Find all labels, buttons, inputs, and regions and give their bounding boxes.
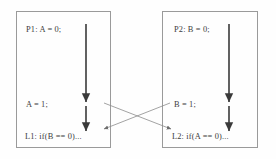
statement-p1-assign: A = 1; [26, 101, 48, 109]
a1-to-l2 [104, 103, 171, 129]
b1-to-l1 [104, 103, 170, 129]
diagram-canvas: P1: A = 0; A = 1; L1: if(B == 0)... P2: … [0, 0, 276, 159]
statement-p1-init: P1: A = 0; [26, 26, 61, 34]
cross-dependency-arrows [104, 103, 171, 129]
statement-p2-init: P2: B = 0; [174, 26, 210, 34]
statement-p2-assign: B = 1; [174, 101, 196, 109]
statement-p1-label: L1: if(B == 0)... [25, 133, 82, 141]
statement-p2-label: L2: if(A == 0)... [172, 133, 229, 141]
